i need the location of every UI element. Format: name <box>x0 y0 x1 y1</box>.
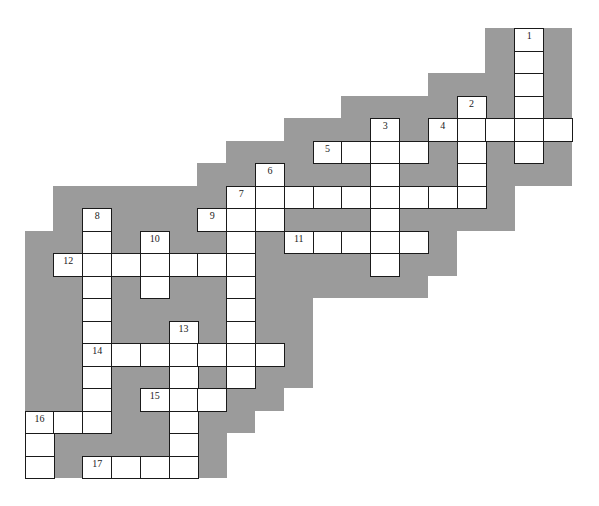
crossword-cell[interactable]: 4 <box>428 118 458 142</box>
crossword-cell[interactable]: 2 <box>457 96 487 120</box>
crossword-cell[interactable] <box>370 186 400 210</box>
crossword-cell[interactable] <box>457 118 487 142</box>
crossword-cell[interactable] <box>140 343 170 367</box>
crossword-cell[interactable]: 13 <box>169 321 199 345</box>
crossword-cell[interactable] <box>514 141 544 165</box>
crossword-cell[interactable] <box>457 141 487 165</box>
crossword-cell[interactable] <box>226 208 256 232</box>
crossword-cell[interactable] <box>543 118 573 142</box>
crossword-cell[interactable] <box>313 186 343 210</box>
crossword-cell[interactable] <box>284 186 314 210</box>
crossword-cell[interactable] <box>197 343 227 367</box>
clue-number: 13 <box>170 323 198 334</box>
crossword-cell[interactable] <box>341 141 371 165</box>
crossword-cell[interactable] <box>514 118 544 142</box>
crossword-cell[interactable] <box>428 186 458 210</box>
crossword-cell[interactable] <box>399 186 429 210</box>
crossword-cell[interactable]: 12 <box>53 253 83 277</box>
crossword-cell[interactable]: 3 <box>370 118 400 142</box>
crossword-cell[interactable] <box>169 366 199 390</box>
crossword-cell[interactable] <box>169 343 199 367</box>
crossword-cell[interactable]: 9 <box>197 208 227 232</box>
crossword-cell[interactable]: 8 <box>82 208 112 232</box>
crossword-cell[interactable] <box>457 163 487 187</box>
clue-number: 9 <box>198 210 226 221</box>
crossword-cell[interactable] <box>457 186 487 210</box>
background-column <box>543 28 572 186</box>
clue-number: 17 <box>83 458 111 469</box>
clue-number: 4 <box>429 120 457 131</box>
crossword-cell[interactable] <box>169 253 199 277</box>
crossword-cell[interactable] <box>111 253 141 277</box>
clue-number: 3 <box>371 120 399 131</box>
crossword-cell[interactable]: 11 <box>284 231 314 255</box>
clue-number: 16 <box>26 413 54 424</box>
crossword-cell[interactable] <box>140 253 170 277</box>
crossword-cell[interactable] <box>255 186 285 210</box>
crossword-cell[interactable] <box>82 231 112 255</box>
crossword-cell[interactable] <box>341 231 371 255</box>
crossword-cell[interactable] <box>82 253 112 277</box>
crossword-cell[interactable] <box>197 253 227 277</box>
crossword-cell[interactable] <box>485 118 515 142</box>
crossword-cell[interactable] <box>514 73 544 97</box>
crossword-cell[interactable]: 5 <box>313 141 343 165</box>
crossword-cell[interactable] <box>140 456 170 480</box>
crossword-cell[interactable] <box>82 298 112 322</box>
crossword-cell[interactable] <box>226 276 256 300</box>
crossword-cell[interactable] <box>370 141 400 165</box>
crossword-cell[interactable]: 14 <box>82 343 112 367</box>
crossword-cell[interactable] <box>226 366 256 390</box>
crossword-cell[interactable] <box>169 456 199 480</box>
crossword-cell[interactable] <box>169 411 199 435</box>
crossword-puzzle: 1234567814910111213151617 <box>0 0 599 506</box>
crossword-cell[interactable] <box>226 321 256 345</box>
clue-number: 12 <box>54 255 82 266</box>
clue-number: 10 <box>141 233 169 244</box>
crossword-cell[interactable]: 15 <box>140 388 170 412</box>
clue-number: 15 <box>141 390 169 401</box>
crossword-cell[interactable]: 6 <box>255 163 285 187</box>
crossword-cell[interactable] <box>82 276 112 300</box>
crossword-cell[interactable]: 10 <box>140 231 170 255</box>
crossword-cell[interactable] <box>226 231 256 255</box>
crossword-cell[interactable] <box>25 456 55 480</box>
crossword-cell[interactable] <box>226 298 256 322</box>
crossword-cell[interactable] <box>226 343 256 367</box>
crossword-cell[interactable]: 17 <box>82 456 112 480</box>
crossword-cell[interactable] <box>255 343 285 367</box>
background-column <box>111 186 140 479</box>
crossword-cell[interactable] <box>514 51 544 75</box>
crossword-cell[interactable] <box>111 343 141 367</box>
crossword-cell[interactable] <box>370 231 400 255</box>
crossword-cell[interactable] <box>370 253 400 277</box>
crossword-cell[interactable] <box>82 411 112 435</box>
crossword-cell[interactable] <box>370 208 400 232</box>
clue-number: 7 <box>227 188 255 199</box>
crossword-cell[interactable] <box>514 96 544 120</box>
clue-number: 8 <box>83 210 111 221</box>
crossword-cell[interactable] <box>197 388 227 412</box>
crossword-cell[interactable] <box>169 433 199 457</box>
crossword-cell[interactable] <box>370 163 400 187</box>
crossword-cell[interactable] <box>82 366 112 390</box>
crossword-cell[interactable]: 16 <box>25 411 55 435</box>
background-column <box>140 186 169 479</box>
crossword-cell[interactable] <box>82 321 112 345</box>
clue-number: 2 <box>458 98 486 109</box>
crossword-cell[interactable] <box>399 141 429 165</box>
clue-number: 5 <box>314 143 342 154</box>
crossword-cell[interactable] <box>140 276 170 300</box>
crossword-cell[interactable] <box>25 433 55 457</box>
crossword-cell[interactable] <box>313 231 343 255</box>
crossword-cell[interactable] <box>111 456 141 480</box>
crossword-cell[interactable] <box>53 411 83 435</box>
crossword-cell[interactable] <box>399 231 429 255</box>
crossword-cell[interactable]: 1 <box>514 28 544 52</box>
crossword-cell[interactable] <box>226 253 256 277</box>
crossword-cell[interactable] <box>82 388 112 412</box>
crossword-cell[interactable] <box>255 208 285 232</box>
crossword-cell[interactable]: 7 <box>226 186 256 210</box>
crossword-cell[interactable] <box>169 388 199 412</box>
crossword-cell[interactable] <box>341 186 371 210</box>
